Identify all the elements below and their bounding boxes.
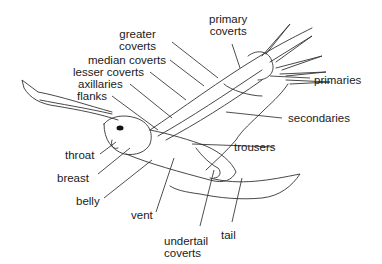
- label-vent: vent: [131, 209, 153, 221]
- bird-drawing: [0, 0, 382, 264]
- label-median-coverts: median coverts: [88, 54, 166, 66]
- label-secondaries: secondaries: [288, 112, 350, 124]
- label-trousers: trousers: [234, 141, 276, 153]
- label-undertail-coverts: undertail coverts: [164, 235, 208, 259]
- label-tail: tail: [221, 229, 236, 241]
- label-breast: breast: [57, 172, 89, 184]
- label-primary-coverts: primary coverts: [209, 13, 247, 37]
- label-belly: belly: [76, 195, 100, 207]
- label-flanks: flanks: [77, 90, 107, 102]
- label-lesser-coverts: lesser coverts: [73, 66, 144, 78]
- bird-topography-diagram: primary coverts greater coverts median c…: [0, 0, 382, 264]
- label-primaries: primaries: [314, 74, 361, 86]
- label-greater-coverts: greater coverts: [119, 28, 156, 52]
- label-axillaries: axillaries: [78, 78, 123, 90]
- label-throat: throat: [65, 149, 94, 161]
